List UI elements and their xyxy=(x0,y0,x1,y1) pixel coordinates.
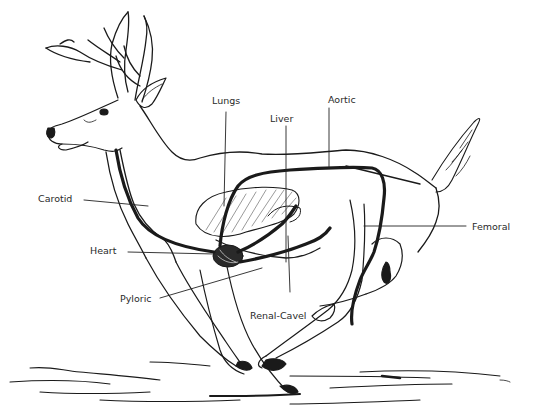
tail xyxy=(432,119,480,193)
label-aortic: Aortic xyxy=(328,95,356,105)
head xyxy=(47,78,166,151)
lungs-organ xyxy=(196,187,301,236)
label-carotid: Carotid xyxy=(38,194,72,204)
deer-diagram xyxy=(0,0,544,419)
leader-carotid xyxy=(84,200,148,206)
blood-vessels xyxy=(116,150,385,324)
heart-organ xyxy=(213,245,243,267)
ground xyxy=(10,362,510,404)
label-femoral: Femoral xyxy=(472,222,510,232)
leader-pyloric xyxy=(160,268,262,298)
label-liver: Liver xyxy=(270,114,293,124)
label-lungs: Lungs xyxy=(212,96,240,106)
label-pyloric: Pyloric xyxy=(120,294,152,304)
leader-renal-cavel xyxy=(288,236,290,292)
leader-heart xyxy=(128,252,214,254)
label-renal-cavel: Renal-Cavel xyxy=(250,311,307,321)
antlers xyxy=(46,12,153,102)
label-heart: Heart xyxy=(90,246,116,256)
